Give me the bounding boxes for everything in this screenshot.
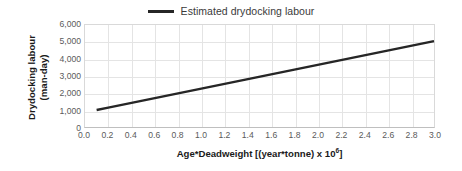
x-axis-tick-label: 1.2: [218, 130, 230, 140]
y-axis-tick-label: 1,000: [59, 106, 81, 116]
x-axis-tick-label: 0.2: [101, 130, 113, 140]
x-axis-tick-label: 2.4: [359, 130, 371, 140]
x-axis-title: Age*Deadweight [(year*tonne) x 106]: [84, 148, 435, 159]
y-axis-tick-label: 2,000: [59, 88, 81, 98]
chart-legend: Estimated drydocking labour: [0, 3, 462, 19]
legend-label-estimated-drydocking-labour: Estimated drydocking labour: [181, 5, 315, 17]
series-layer: [85, 25, 434, 127]
y-axis-tick-labels: 01,0002,0003,0004,0005,0006,000: [48, 20, 81, 130]
y-axis-title-text: Drydocking labour (man-day): [26, 35, 49, 120]
x-axis-tick-label: 1.6: [265, 130, 277, 140]
drydocking-labour-line-chart: Estimated drydocking labour Drydocking l…: [0, 0, 462, 171]
x-axis-tick-label: 0.6: [148, 130, 160, 140]
legend-line-swatch-estimated-drydocking-labour: [148, 10, 174, 13]
x-axis-title-prefix: Age*Deadweight [(year*tonne) x 10: [177, 148, 336, 159]
y-axis-title-line2: (man-day): [37, 54, 48, 100]
x-axis-tick-label: 0.8: [172, 130, 184, 140]
x-axis-tick-label: 1.0: [195, 130, 207, 140]
x-axis-tick-label: 2.0: [312, 130, 324, 140]
x-axis-title-suffix: ]: [339, 148, 342, 159]
y-axis-tick-label: 5,000: [59, 36, 81, 46]
y-axis-tick-label: 4,000: [59, 54, 81, 64]
x-axis-tick-label: 1.8: [289, 130, 301, 140]
y-axis-tick-label: 3,000: [59, 71, 81, 81]
plot-area: [84, 24, 435, 128]
x-axis-tick-label: 2.8: [406, 130, 418, 140]
x-axis-tick-label: 0.0: [78, 130, 90, 140]
series-line-estimated-drydocking-labour: [97, 41, 434, 110]
x-axis-tick-label: 3.0: [429, 130, 441, 140]
y-axis-title-line1: Drydocking labour: [26, 35, 37, 120]
x-axis-tick-label: 0.4: [125, 130, 137, 140]
x-axis-tick-labels: 0.00.20.40.60.81.01.21.41.61.82.02.22.42…: [84, 130, 435, 143]
x-axis-tick-label: 1.4: [242, 130, 254, 140]
x-axis-tick-label: 2.2: [335, 130, 347, 140]
y-axis-tick-label: 6,000: [59, 19, 81, 29]
x-axis-tick-label: 2.6: [382, 130, 394, 140]
